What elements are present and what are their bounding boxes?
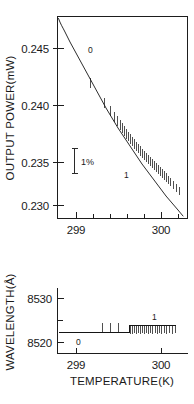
upper-ytick-0235: 0.235 [21, 157, 49, 169]
output-power-mode-hop-spikes [90, 78, 179, 195]
wavelength-trace [59, 326, 176, 333]
wavelength-isolated-spikes [103, 323, 119, 333]
upper-ytick-0245: 0.245 [21, 43, 49, 55]
upper-ytick-0240: 0.240 [21, 100, 49, 112]
lower-xtick-299: 299 [67, 359, 86, 371]
lower-y-axis-title: WAVELENGTH(Å) [4, 273, 16, 370]
lower-ytick-8530: 8530 [27, 293, 52, 305]
upper-xtick-300: 300 [152, 224, 171, 236]
wavelength-plateau-spikes [131, 326, 176, 334]
upper-ytick-0230: 0.230 [21, 200, 49, 212]
error-bar-label: 1% [81, 157, 94, 167]
lower-y-ticks [58, 299, 64, 343]
lower-x-ticks [77, 348, 162, 354]
upper-mode-label-1: 1 [124, 170, 129, 180]
output-power-trace [59, 19, 184, 217]
lower-mode-label-0: 0 [76, 337, 81, 347]
lower-mode-label-1: 1 [152, 312, 157, 322]
x-axis-title: TEMPERATURE(K) [70, 375, 174, 387]
error-bar [72, 149, 78, 174]
upper-y-axis-title: OUTPUT POWER(mW) [4, 56, 16, 181]
upper-x-ticks [77, 212, 179, 219]
output-power-panel: 1% 0 1 0.245 0.240 0.235 0.230 299 300 O… [4, 17, 188, 237]
upper-mode-label-0: 0 [88, 45, 93, 55]
upper-xtick-299: 299 [67, 224, 86, 236]
upper-plot-frame [58, 17, 188, 219]
figure-svg: 1% 0 1 0.245 0.240 0.235 0.230 299 300 O… [0, 0, 194, 404]
lower-ytick-8520: 8520 [27, 337, 52, 349]
lower-xtick-300: 300 [152, 359, 171, 371]
wavelength-panel: 0 1 8530 8520 299 300 WAVELENGTH(Å) TEMP… [4, 273, 188, 387]
figure-container: 1% 0 1 0.245 0.240 0.235 0.230 299 300 O… [0, 0, 194, 404]
